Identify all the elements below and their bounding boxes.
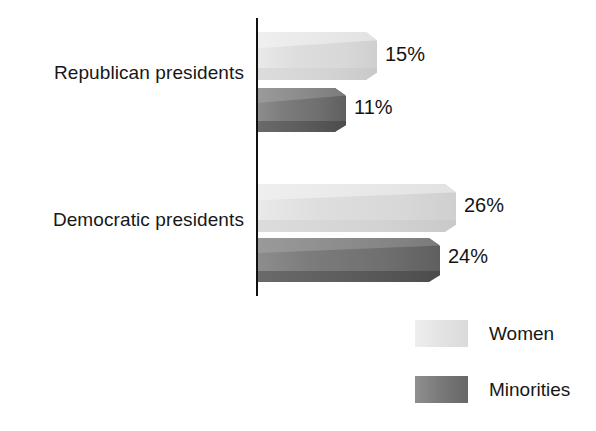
bar-democratic-women [258,184,456,232]
bar-republican-women [258,32,377,80]
legend-label-minorities: Minorities [489,379,570,401]
bar-bottom-face [258,271,440,282]
legend-item-minorities: Minorities [415,376,570,403]
legend-item-women: Women [415,320,554,347]
value-label-republican-minorities: 11% [354,96,393,119]
bar-bottom-face [258,220,456,232]
value-label-republican-women: 15% [385,43,425,66]
value-label-democratic-women: 26% [464,194,504,217]
value-label-democratic-minorities: 24% [448,245,488,268]
bar-republican-minorities [258,88,346,132]
category-label-republican: Republican presidents [54,62,244,84]
category-label-democratic: Democratic presidents [53,209,244,231]
legend-swatch-women-icon [415,320,468,347]
bar-bottom-face [258,68,377,80]
legend-swatch-minorities-icon [415,376,468,403]
bar-bottom-face [258,121,346,132]
legend-label-women: Women [489,323,554,345]
bar-democratic-minorities [258,238,440,282]
bar-chart: Republican presidents Democratic preside… [0,0,596,431]
